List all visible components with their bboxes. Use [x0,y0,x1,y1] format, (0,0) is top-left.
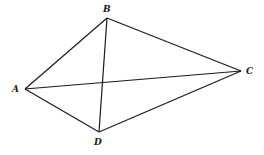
label-c: C [246,66,254,76]
edges [25,18,241,132]
geometry-figure: A B C D [0,0,264,155]
segment-ac [25,71,241,89]
segment-ab [25,18,107,89]
segment-bc [107,18,241,71]
vertex-labels: A B C D [11,4,254,147]
label-a: A [11,84,19,94]
segment-bd [99,18,107,132]
label-d: D [93,137,102,147]
label-b: B [102,4,111,14]
segment-cd [99,71,241,132]
segment-da [25,89,99,132]
